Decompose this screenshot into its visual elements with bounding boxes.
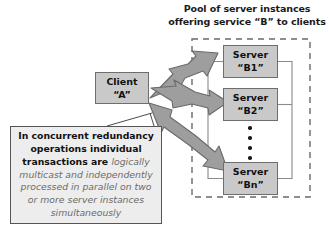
server-node-b2-label-line2: “B2” [237,105,263,117]
server-pool-caption: Pool of server instances offering servic… [168,3,326,29]
server-bracket-right [278,62,292,179]
callout-leader-line-2 [107,113,152,126]
server-node-bn-label-line2: “Bn” [237,179,264,191]
callout-textbox-content: In concurrent redundancy operations indi… [11,130,161,220]
ellipsis-dot [248,126,252,130]
client-node[interactable]: Client “A” [95,72,149,104]
vertical-ellipsis-icon [244,126,256,160]
client-node-label-line1: Client [106,76,137,88]
client-node-label-line2: “A” [113,89,131,101]
ellipsis-dot [248,146,252,150]
server-node-bn[interactable]: Server “Bn” [223,162,278,195]
server-node-b1-label-line2: “B1” [237,62,263,74]
server-node-b2-label-line1: Server [233,92,268,104]
server-node-bn-label-line1: Server [233,166,268,178]
ellipsis-dot [248,136,252,140]
server-pool-caption-line1: Pool of server instances [168,3,326,16]
server-node-b1[interactable]: Server “B1” [223,45,278,78]
ellipsis-dot [248,156,252,160]
server-pool-caption-line2: offering service “B” to clients [168,16,326,29]
callout-textbox: In concurrent redundancy operations indi… [10,126,162,224]
server-node-b1-label-line1: Server [233,49,268,61]
diagram-canvas: Pool of server instances offering servic… [0,0,329,232]
server-node-b2[interactable]: Server “B2” [223,88,278,121]
